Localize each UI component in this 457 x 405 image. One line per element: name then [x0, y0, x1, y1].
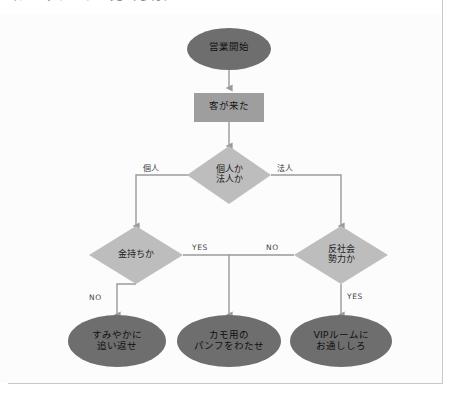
node-shape-give-pamphlet: [177, 315, 281, 367]
connector-decision-to-rich: [136, 175, 188, 226]
connector-rich-no-drive-away: [117, 284, 136, 315]
node-shape-drive-away: [68, 315, 166, 367]
flowchart-diagram: [0, 0, 457, 405]
node-shape-start: [187, 28, 271, 70]
node-shape-individual-or-corporate: [187, 146, 271, 204]
scanned-page: （クリップされた見出し行）: [0, 0, 457, 405]
node-shapes-layer: [68, 28, 392, 367]
node-shape-vip-room: [290, 315, 392, 367]
connector-rich-yes-pamphlet: [183, 255, 229, 315]
node-shape-is-rich: [89, 226, 183, 284]
node-shape-is-antisocial: [294, 226, 388, 284]
node-shape-customer-arrived: [194, 93, 264, 122]
connector-decision-to-antisocial: [271, 175, 341, 226]
